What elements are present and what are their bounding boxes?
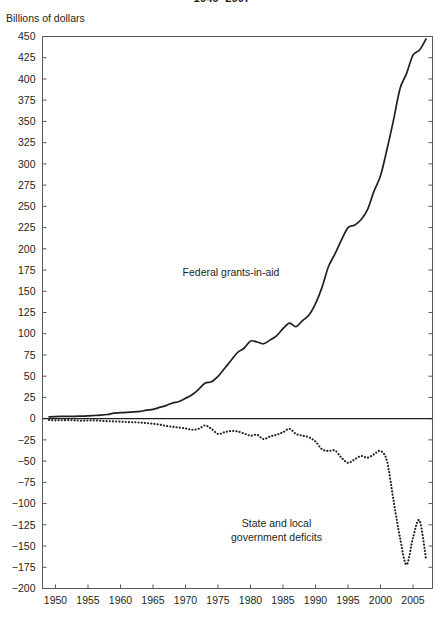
y-tick-label: −125	[12, 519, 36, 531]
x-tick-label: 1985	[271, 594, 295, 606]
x-tick-label: 1995	[336, 594, 360, 606]
series-label-2: State and local	[242, 517, 311, 529]
x-tick-label: 1975	[206, 594, 230, 606]
y-tick-label: 125	[18, 306, 36, 318]
y-tick-label: 50	[24, 370, 36, 382]
y-tick-label: 175	[18, 264, 36, 276]
y-tick-label: 450	[18, 30, 36, 42]
y-tick-label: 225	[18, 221, 36, 233]
x-tick-label: 2005	[401, 594, 425, 606]
x-tick-label: 1970	[174, 594, 198, 606]
y-tick-label: −100	[12, 497, 36, 509]
y-tick-label: −25	[18, 434, 36, 446]
chart-figure: 1949–2007 Billions of dollars 4504254003…	[0, 0, 444, 618]
y-tick-label: 75	[24, 349, 36, 361]
y-tick-label: 25	[24, 391, 36, 403]
y-tick-label: −175	[12, 561, 36, 573]
y-tick-label: 275	[18, 179, 36, 191]
y-tick-label: 325	[18, 136, 36, 148]
x-tick-label: 2000	[369, 594, 393, 606]
series-label-1: Federal grants-in-aid	[183, 266, 280, 278]
x-tick-label: 1950	[44, 594, 68, 606]
x-tick-label: 1965	[141, 594, 165, 606]
y-tick-label: −75	[18, 476, 36, 488]
x-tick-label: 1990	[304, 594, 328, 606]
y-tick-label: 425	[18, 51, 36, 63]
line-chart-plot: 4504254003753503253002752502252001751501…	[0, 0, 444, 618]
y-tick-label: 350	[18, 115, 36, 127]
y-tick-label: 200	[18, 243, 36, 255]
y-tick-label: 0	[30, 412, 36, 424]
x-tick-label: 1980	[239, 594, 263, 606]
y-tick-label: 150	[18, 285, 36, 297]
y-tick-label: 300	[18, 158, 36, 170]
y-tick-label: −150	[12, 540, 36, 552]
plot-frame	[43, 37, 433, 589]
y-tick-label: −50	[18, 455, 36, 467]
y-tick-label: 400	[18, 73, 36, 85]
y-tick-label: −200	[12, 582, 36, 594]
series-label-2: government deficits	[231, 531, 322, 543]
x-tick-label: 1955	[76, 594, 100, 606]
y-tick-label: 250	[18, 200, 36, 212]
y-tick-label: 375	[18, 94, 36, 106]
y-tick-label: 100	[18, 327, 36, 339]
x-tick-label: 1960	[109, 594, 133, 606]
